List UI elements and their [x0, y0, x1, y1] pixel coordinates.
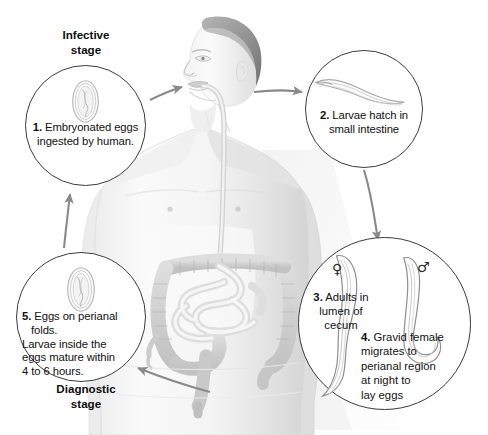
- diagnostic-stage-line2: stage: [28, 396, 144, 411]
- callout-3-line1: Adults in: [325, 291, 368, 303]
- infective-stage-line1: Infective: [30, 27, 142, 42]
- callout-34-adult-worms[interactable]: ♀ ♂ 3. Adults in lumen of cecum 4. Gravi…: [298, 237, 471, 410]
- callout-1-text: 1. Embryonated eggs ingested by human.: [26, 121, 145, 149]
- callout-2-number: 2.: [320, 109, 329, 121]
- callout-4-line3: perianal region: [372, 359, 476, 373]
- life-cycle-diagram: Infective stage Diagnostic stage 1. Embr…: [0, 0, 488, 435]
- callout-4-text: 4. Gravid female migrates to perianal re…: [361, 330, 476, 402]
- callout-3-text: 3. Adults in lumen of cecum: [305, 290, 377, 332]
- callout-3-number: 3.: [313, 291, 322, 303]
- callout-1-line2: ingested by human.: [26, 135, 145, 149]
- callout-4-line1: Gravid female: [374, 331, 444, 343]
- male-symbol-icon: ♂: [417, 260, 430, 274]
- callout-4-line4: at night to: [372, 373, 476, 387]
- callout-5-eggs-perianal-folds[interactable]: 5. Eggs on perianal folds. Larvae inside…: [16, 252, 146, 382]
- callout-5-line2: Larvae inside the: [31, 338, 145, 352]
- callout-2-line2: small intestine: [306, 123, 422, 137]
- callout-4-number: 4.: [361, 331, 370, 343]
- callout-2-text: 2. Larvae hatch in small intestine: [306, 109, 422, 137]
- callout-2-larvae-hatch[interactable]: 2. Larvae hatch in small intestine: [305, 50, 423, 168]
- diagnostic-stage-label: Diagnostic stage: [28, 381, 144, 412]
- callout-5-line1: Eggs on perianal folds.: [31, 310, 117, 336]
- callout-1-line1: Embryonated eggs: [45, 121, 138, 133]
- callout-4-line5: lay eggs: [372, 388, 476, 402]
- infective-stage-line2: stage: [30, 42, 142, 57]
- infective-stage-label: Infective stage: [30, 27, 142, 58]
- callout-4-line2: migrates to: [372, 344, 476, 358]
- callout-5-number: 5.: [22, 310, 31, 322]
- diagnostic-stage-line1: Diagnostic: [28, 381, 144, 396]
- callout-5-line3: eggs mature within: [31, 351, 145, 365]
- callout-1-number: 1.: [33, 121, 42, 133]
- callout-5-line4: 4 to 6 hours.: [31, 365, 145, 379]
- callout-2-line1: Larvae hatch in: [332, 109, 408, 121]
- female-symbol-icon: ♀: [332, 262, 342, 276]
- callout-1-embryonated-eggs[interactable]: 1. Embryonated eggs ingested by human.: [25, 65, 146, 186]
- callout-5-text: 5. Eggs on perianal folds. Larvae inside…: [17, 310, 145, 379]
- callout-3-line2: lumen of: [305, 304, 377, 318]
